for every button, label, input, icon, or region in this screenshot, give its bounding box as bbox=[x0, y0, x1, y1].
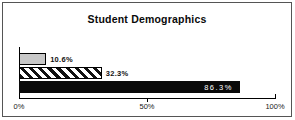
bar-hatched bbox=[19, 67, 102, 79]
bar-black: 86.3% bbox=[19, 81, 240, 93]
bar-value-label: 32.3% bbox=[106, 69, 129, 78]
x-tick-label-50: 50% bbox=[139, 102, 154, 111]
x-axis-tick-100 bbox=[275, 94, 276, 98]
bar-row-2: 32.3% bbox=[19, 67, 128, 79]
chart-frame: Student Demographics 10.6% 32.3% 86.3% 0… bbox=[2, 2, 292, 117]
bar-row-3: 86.3% bbox=[19, 81, 240, 93]
chart-title: Student Demographics bbox=[3, 13, 291, 25]
chart-canvas: Student Demographics 10.6% 32.3% 86.3% 0… bbox=[0, 0, 295, 120]
x-tick-label-100: 100% bbox=[265, 102, 284, 111]
x-tick-label-0: 0% bbox=[14, 102, 25, 111]
bar-gray bbox=[19, 53, 46, 65]
bar-row-1: 10.6% bbox=[19, 53, 73, 65]
x-axis-labels: 0% 50% 100% bbox=[19, 102, 276, 112]
bar-value-label: 10.6% bbox=[50, 55, 73, 64]
bar-value-label: 86.3% bbox=[204, 83, 233, 92]
